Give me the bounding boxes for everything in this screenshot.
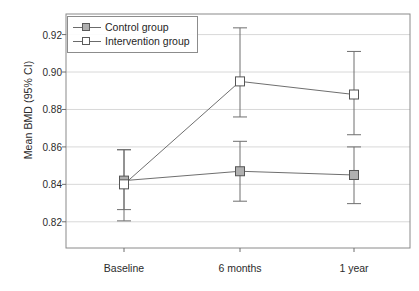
gridlines — [66, 35, 410, 222]
legend-item-label: Control group — [105, 21, 169, 33]
data-point-marker — [120, 180, 129, 189]
chart-legend: Control group Intervention group — [67, 16, 198, 53]
x-axis-tick-label: Baseline — [104, 262, 144, 274]
x-axis-tick-label: 6 months — [218, 262, 261, 274]
x-axis-tick-label: 1 year — [339, 262, 368, 274]
x-axis-ticks — [124, 248, 354, 252]
data-point-marker — [350, 170, 359, 179]
legend-item-label: Intervention group — [105, 35, 190, 47]
series-layer — [117, 28, 361, 221]
open-square-marker-icon — [73, 35, 101, 47]
data-point-marker — [350, 90, 359, 99]
plot-area — [0, 0, 419, 291]
filled-square-marker-icon — [73, 21, 101, 33]
legend-item-control[interactable]: Control group — [73, 20, 190, 34]
data-point-marker — [236, 77, 245, 86]
data-point-marker — [236, 167, 245, 176]
bmd-line-chart: Mean BMD (95% CI) 0.920.900.880.860.840.… — [0, 0, 419, 291]
legend-item-intervention[interactable]: Intervention group — [73, 34, 190, 48]
